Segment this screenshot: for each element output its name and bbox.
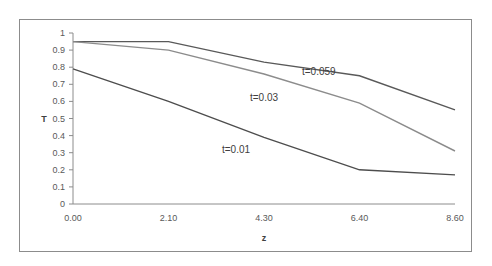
- line-chart: 00.10.20.30.40.50.60.70.80.910.002.104.3…: [0, 0, 492, 266]
- y-tick-label: 0.2: [52, 165, 65, 175]
- y-tick-label: 0.5: [52, 114, 65, 124]
- y-tick-label: 0.1: [52, 182, 65, 192]
- series-label: t=0.01: [222, 144, 251, 155]
- y-axis-title: T: [41, 114, 47, 124]
- y-tick-label: 0: [60, 199, 65, 209]
- x-tick-label: 2.10: [160, 213, 178, 223]
- series-labels: t=0.059t=0.03t=0.01: [222, 66, 336, 155]
- y-tick-label: 0.6: [52, 96, 65, 106]
- series-label: t=0.03: [250, 92, 279, 103]
- y-tick-label: 0.3: [52, 148, 65, 158]
- y-tick-label: 0.9: [52, 45, 65, 55]
- axes: 00.10.20.30.40.50.60.70.80.910.002.104.3…: [52, 28, 463, 223]
- x-tick-label: 4.30: [255, 213, 273, 223]
- x-axis-title: z: [262, 233, 267, 243]
- x-tick-label: 0.00: [64, 213, 82, 223]
- y-tick-label: 1: [60, 28, 65, 38]
- y-tick-label: 0.4: [52, 131, 65, 141]
- x-tick-label: 6.40: [351, 213, 369, 223]
- series-lines: [73, 42, 455, 175]
- y-tick-label: 0.8: [52, 62, 65, 72]
- x-tick-label: 8.60: [446, 213, 464, 223]
- y-tick-label: 0.7: [52, 79, 65, 89]
- series-label: t=0.059: [302, 66, 336, 77]
